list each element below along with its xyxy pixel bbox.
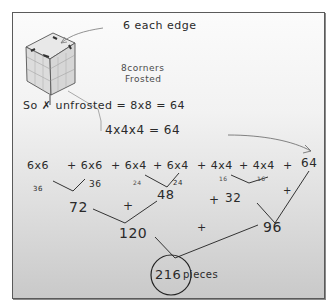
term: + 4x4 xyxy=(197,159,233,172)
sum-72: 72 xyxy=(69,199,88,215)
plus-sign: + xyxy=(209,193,220,207)
term: + 6x6 xyxy=(67,159,103,172)
sum-120: 120 xyxy=(119,225,147,241)
unfrosted-equation: So ✗ unfrosted = 8x8 = 64 xyxy=(23,99,185,112)
product: 16 xyxy=(257,175,266,182)
cube-icon xyxy=(26,33,75,105)
sum-48: 48 xyxy=(157,187,175,202)
term: + xyxy=(283,159,293,172)
product: 36 xyxy=(33,185,43,193)
term: + 4x4 xyxy=(239,159,275,172)
sum-96: 96 xyxy=(263,219,282,235)
corners-label: 8corners xyxy=(121,63,164,73)
sum-32: 32 xyxy=(225,191,241,205)
product: 36 xyxy=(89,179,101,189)
frosted-label: Frosted xyxy=(125,74,162,84)
term: 6x6 xyxy=(27,159,49,172)
term: + 6x4 xyxy=(153,159,189,172)
result-suffix: pieces xyxy=(183,269,218,280)
plus-sign: + xyxy=(283,185,292,196)
edge-label: 6 each edge xyxy=(123,19,197,32)
term: + 6x4 xyxy=(111,159,147,172)
arrow-icon xyxy=(228,135,311,151)
plus-sign: + xyxy=(197,221,207,234)
result-value: 216 xyxy=(155,267,181,282)
sketch-drawing xyxy=(13,13,324,298)
cube-volume-equation: 4x4x4 = 64 xyxy=(105,123,180,137)
paper-sheet: 6 each edge 8corners Frosted So ✗ unfros… xyxy=(12,12,325,299)
product: 24 xyxy=(133,179,142,186)
product: 24 xyxy=(173,179,183,187)
plus-sign: + xyxy=(123,199,134,213)
term: 64 xyxy=(301,156,317,170)
product: 16 xyxy=(219,175,228,182)
